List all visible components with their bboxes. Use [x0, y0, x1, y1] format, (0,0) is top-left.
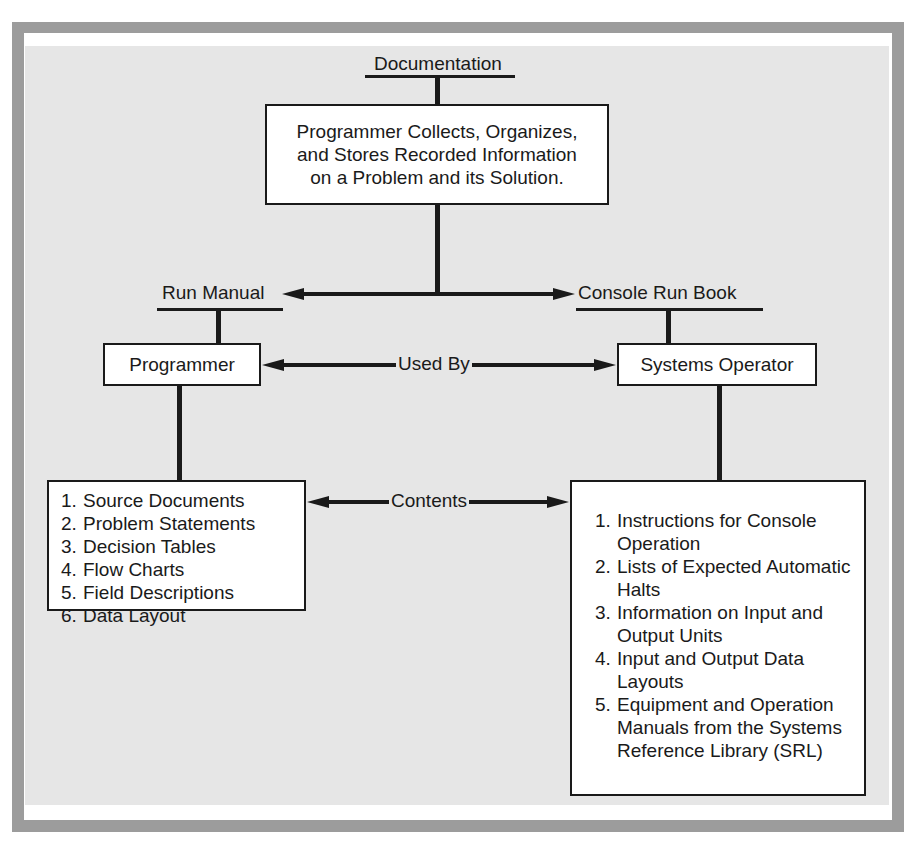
documentation-box-line-1: Programmer Collects, Organizes, — [297, 120, 578, 143]
arrow-right-icon — [594, 359, 616, 371]
arrow-right-icon — [547, 496, 569, 508]
console-run-book-contents-box: 1.Instructions for Console Operation 2.L… — [570, 480, 866, 796]
list-item: 5.Field Descriptions — [61, 581, 304, 604]
connector-run-manual-to-programmer — [216, 309, 221, 344]
documentation-box-line-3: on a Problem and its Solution. — [297, 166, 578, 189]
list-item: 4.Input and Output Data Layouts — [595, 647, 856, 693]
list-item: 3.Decision Tables — [61, 535, 304, 558]
documentation-box-line-2: and Stores Recorded Information — [297, 143, 578, 166]
run-manual-contents-box: 1.Source Documents 2.Problem Statements … — [47, 480, 306, 611]
contents-label: Contents — [389, 490, 469, 512]
arrow-left-icon — [307, 496, 329, 508]
systems-operator-label: Systems Operator — [640, 353, 793, 376]
connector-run-book-to-operator — [666, 309, 671, 344]
list-item: 5.Equipment and Operation Manuals from t… — [595, 693, 856, 762]
list-item: 1.Source Documents — [61, 489, 304, 512]
console-run-book-contents-list: 1.Instructions for Console Operation 2.L… — [595, 509, 856, 762]
list-item: 2.Lists of Expected Automatic Halts — [595, 555, 856, 601]
connector-box-to-split — [435, 205, 440, 296]
arrow-right-icon — [553, 288, 575, 300]
console-run-book-heading: Console Run Book — [578, 282, 736, 304]
list-item: 1.Instructions for Console Operation — [595, 509, 856, 555]
run-manual-heading: Run Manual — [162, 282, 264, 304]
documentation-underline — [365, 75, 515, 78]
list-item: 2.Problem Statements — [61, 512, 304, 535]
documentation-heading: Documentation — [374, 53, 502, 75]
connector-operator-to-contents — [717, 386, 722, 482]
connector-programmer-to-contents — [177, 386, 182, 482]
arrow-left-icon — [282, 288, 304, 300]
list-item: 6.Data Layout — [61, 604, 304, 627]
programmer-box: Programmer — [103, 343, 261, 386]
used-by-label: Used By — [396, 353, 472, 375]
run-manual-contents-list: 1.Source Documents 2.Problem Statements … — [61, 489, 304, 627]
programmer-label: Programmer — [129, 353, 235, 376]
split-line — [302, 292, 560, 296]
arrow-left-icon — [262, 359, 284, 371]
connector-documentation-to-box — [435, 75, 440, 106]
list-item: 3.Information on Input and Output Units — [595, 601, 856, 647]
systems-operator-box: Systems Operator — [617, 343, 817, 386]
documentation-box: Programmer Collects, Organizes, and Stor… — [265, 104, 609, 205]
list-item: 4.Flow Charts — [61, 558, 304, 581]
